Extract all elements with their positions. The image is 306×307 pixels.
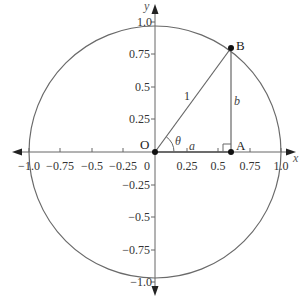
y-tick-label: −0.25 bbox=[122, 178, 150, 192]
y-tick-label: 0.5 bbox=[135, 80, 150, 94]
x-tick-label: 0.25 bbox=[177, 159, 198, 173]
x-axis-label: x bbox=[292, 151, 299, 165]
x-tick-label: −0.5 bbox=[81, 159, 103, 173]
x-axis-left-arrow-icon bbox=[12, 149, 22, 156]
y-tick-label: −0.5 bbox=[128, 210, 150, 224]
point-O bbox=[152, 149, 158, 155]
y-tick-label: 0.25 bbox=[129, 112, 150, 126]
opposite-label: b bbox=[234, 94, 240, 108]
point-B-label: B bbox=[236, 38, 245, 53]
y-tick-label: 0.75 bbox=[129, 47, 150, 61]
x-tick-label: 0.75 bbox=[240, 159, 261, 173]
y-axis-down-arrow-icon bbox=[152, 286, 159, 296]
point-A bbox=[228, 149, 234, 155]
adjacent-label: a bbox=[189, 139, 195, 153]
point-O-label: O bbox=[140, 137, 149, 152]
y-axis-label: y bbox=[143, 0, 150, 13]
y-tick-label: 1.0 bbox=[137, 15, 152, 29]
angle-arc-theta bbox=[166, 137, 174, 152]
angle-theta-label: θ bbox=[175, 134, 181, 148]
point-A-label: A bbox=[236, 138, 246, 153]
x-tick-label: −0.75 bbox=[46, 159, 74, 173]
y-tick-label: −0.75 bbox=[122, 243, 150, 257]
x-tick-label: −0.25 bbox=[109, 159, 137, 173]
hypotenuse-label: 1 bbox=[184, 89, 190, 103]
origin-tick-label: 0 bbox=[144, 159, 150, 173]
x-tick-label: −1.0 bbox=[18, 159, 40, 173]
y-tick-label: −1.0 bbox=[130, 275, 152, 289]
unit-circle-diagram: −1.0 −0.75 −0.5 −0.25 0.25 0.5 0.75 1.0 … bbox=[0, 0, 306, 307]
y-axis-up-arrow-icon bbox=[152, 4, 159, 14]
x-tick-label: 1.0 bbox=[274, 159, 289, 173]
point-B bbox=[228, 45, 234, 51]
hypotenuse-OB bbox=[155, 48, 231, 152]
x-tick-label: 0.5 bbox=[211, 159, 226, 173]
